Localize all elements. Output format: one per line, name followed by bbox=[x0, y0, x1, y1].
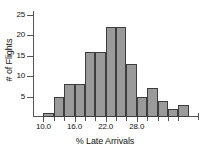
histogram-bar bbox=[168, 109, 178, 117]
x-axis-tick-label-wrap: 10.0 bbox=[28, 122, 58, 131]
histogram-bar bbox=[75, 84, 85, 117]
x-axis-tick-label: 22.0 bbox=[91, 122, 121, 131]
chart-screenshot: 510152025 10.016.022.028.0 % Late Arriva… bbox=[0, 0, 210, 152]
histogram-bar bbox=[95, 52, 105, 117]
x-axis-minor-tick bbox=[178, 117, 179, 121]
x-axis-tick-label: 28.0 bbox=[122, 122, 152, 131]
x-axis-minor-tick bbox=[95, 117, 96, 121]
x-axis-minor-tick bbox=[54, 117, 55, 121]
histogram-bar bbox=[64, 84, 74, 117]
histogram-bar bbox=[106, 27, 116, 117]
x-axis-minor-tick bbox=[85, 117, 86, 121]
y-axis-tick-label: 25 bbox=[8, 11, 25, 19]
histogram-bar bbox=[85, 52, 95, 117]
histogram-bars bbox=[33, 11, 199, 117]
x-axis-minor-tick bbox=[64, 117, 65, 121]
y-axis-title: # of Flights bbox=[4, 20, 14, 100]
x-axis-minor-tick bbox=[116, 117, 117, 121]
x-axis-tick-label-wrap: 16.0 bbox=[60, 122, 90, 131]
x-axis-minor-tick bbox=[168, 117, 169, 121]
x-axis-minor-tick bbox=[147, 117, 148, 121]
x-axis-minor-tick bbox=[126, 117, 127, 121]
x-axis-minor-tick bbox=[158, 117, 159, 121]
histogram-plot: 510152025 10.016.022.028.0 % Late Arriva… bbox=[0, 0, 210, 152]
histogram-bar bbox=[126, 64, 136, 117]
histogram-bar bbox=[178, 105, 188, 117]
x-axis-tick-label: 16.0 bbox=[60, 122, 90, 131]
x-axis-tick-label: 10.0 bbox=[28, 122, 58, 131]
histogram-bar bbox=[137, 97, 147, 117]
histogram-bar bbox=[54, 97, 64, 117]
histogram-bar bbox=[116, 27, 126, 117]
x-axis-title: % Late Arrivals bbox=[0, 136, 210, 146]
x-axis-tick-label-wrap: 22.0 bbox=[91, 122, 121, 131]
y-axis-tick-label-wrap: 25 bbox=[8, 11, 25, 19]
histogram-bar bbox=[43, 113, 53, 117]
histogram-bar bbox=[147, 88, 157, 117]
histogram-bar bbox=[158, 101, 168, 117]
x-axis-tick-label-wrap: 28.0 bbox=[122, 122, 152, 131]
